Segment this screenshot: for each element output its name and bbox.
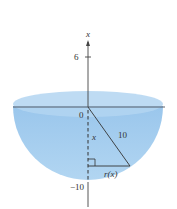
- r-of-x-label: r(x): [104, 169, 118, 179]
- tick-label-neg10: −10: [70, 182, 85, 192]
- axis-label: x: [85, 29, 90, 39]
- hemisphere-diagram: x 6 0 −10 10 x r(x): [0, 0, 177, 209]
- radius-label: 10: [118, 130, 128, 140]
- axis-arrow-icon: [86, 40, 90, 46]
- tick-label-0: 0: [79, 110, 84, 120]
- depth-label: x: [91, 132, 96, 142]
- tick-label-6: 6: [74, 52, 79, 62]
